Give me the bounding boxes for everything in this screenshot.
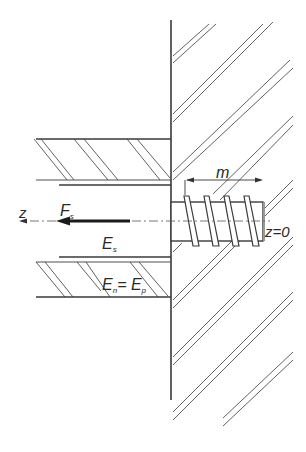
upper-plate-hatching	[34, 139, 170, 180]
origin-label: z=0	[264, 223, 290, 240]
screw-modulus-label: Es	[102, 235, 117, 254]
length-m-label: m	[216, 164, 229, 181]
z-axis-label: z	[18, 204, 27, 221]
force-label: Fs	[60, 202, 74, 221]
upper-plate	[34, 139, 171, 185]
screw-joint-diagram: z Fs Es En= Ep m z=0	[0, 0, 306, 452]
plate-modulus-label: En= Ep	[102, 276, 147, 295]
